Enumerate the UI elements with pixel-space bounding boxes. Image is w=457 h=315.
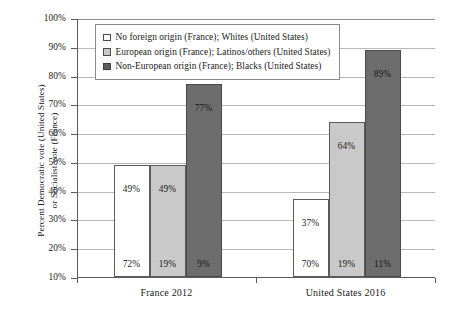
y-axis-label: 70% <box>0 99 66 109</box>
bar-0-1[interactable]: 49%19% <box>150 165 186 277</box>
x-axis-tick <box>435 278 436 283</box>
bar-1-2[interactable]: 89%11% <box>365 50 401 277</box>
x-axis-category-label: United States 2016 <box>266 287 426 298</box>
bar-value-label: 89% <box>366 69 400 79</box>
y-axis-label: 20% <box>0 243 66 253</box>
legend-label-1: European origin (France); Latinos/others… <box>116 47 331 57</box>
y-axis-tick <box>71 134 77 135</box>
bar-1-1[interactable]: 64%19% <box>329 122 365 277</box>
bar-share-label: 70% <box>294 259 328 269</box>
y-axis-tick <box>71 249 77 250</box>
legend-swatch-icon-1 <box>103 48 111 56</box>
bar-value-label: 64% <box>330 141 364 151</box>
y-axis-label: 60% <box>0 128 66 138</box>
gridline <box>78 19 435 20</box>
y-axis-label: 30% <box>0 214 66 224</box>
y-axis-label: 10% <box>0 272 66 282</box>
y-axis-tick <box>71 19 77 20</box>
bar-chart: Percent Democratic vote (United States) … <box>0 0 457 315</box>
y-axis-tick <box>71 77 77 78</box>
y-axis-label: 100% <box>0 13 66 23</box>
bar-value-label: 49% <box>151 184 185 194</box>
bar-1-0[interactable]: 37%70% <box>293 199 329 277</box>
legend-item-2[interactable]: Non-European origin (France); Blacks (Un… <box>103 59 330 74</box>
y-axis-label: 50% <box>0 157 66 167</box>
legend-label-2: Non-European origin (France); Blacks (Un… <box>116 61 322 71</box>
x-axis-tick <box>256 278 257 283</box>
y-axis-tick <box>71 48 77 49</box>
y-axis-tick <box>71 163 77 164</box>
legend-item-1[interactable]: European origin (France); Latinos/others… <box>103 45 330 60</box>
bar-0-2[interactable]: 77%9% <box>186 84 222 277</box>
bar-value-label: 49% <box>115 184 149 194</box>
bar-value-label: 37% <box>294 218 328 228</box>
y-axis-tick <box>71 105 77 106</box>
y-axis-label: 40% <box>0 186 66 196</box>
y-axis-tick <box>71 192 77 193</box>
bar-share-label: 19% <box>330 259 364 269</box>
legend-item-0[interactable]: No foreign origin (France); Whites (Unit… <box>103 30 330 45</box>
bar-share-label: 72% <box>115 259 149 269</box>
bar-value-label: 77% <box>187 103 221 113</box>
legend-swatch-icon-0 <box>103 34 111 42</box>
x-axis-category-label: France 2012 <box>87 287 247 298</box>
y-axis-label: 80% <box>0 71 66 81</box>
bar-share-label: 11% <box>366 259 400 269</box>
y-axis-tick <box>71 220 77 221</box>
chart-legend: No foreign origin (France); Whites (Unit… <box>95 24 340 80</box>
x-axis-tick <box>77 278 78 283</box>
legend-swatch-icon-2 <box>103 63 111 71</box>
bar-share-label: 9% <box>187 259 221 269</box>
y-axis-label: 90% <box>0 42 66 52</box>
bar-0-0[interactable]: 49%72% <box>114 165 150 277</box>
bar-share-label: 19% <box>151 259 185 269</box>
legend-label-0: No foreign origin (France); Whites (Unit… <box>116 32 308 42</box>
